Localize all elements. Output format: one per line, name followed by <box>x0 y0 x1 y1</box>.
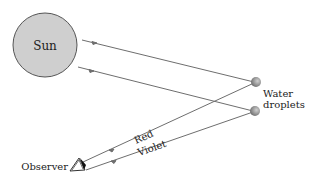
arrow-icon <box>111 161 116 164</box>
outgoing-rays <box>83 83 254 170</box>
arrow-icon <box>89 70 94 73</box>
sun: Sun <box>13 13 77 77</box>
observer-eye-icon <box>70 158 86 171</box>
incoming-rays <box>78 40 254 111</box>
ray-lower <box>78 67 253 111</box>
arrow-icon <box>92 42 97 45</box>
arrow-icon <box>109 149 114 152</box>
water-droplet-upper <box>251 77 261 87</box>
rainbow-diagram: Sun Water droplets Red Violet Observer <box>0 0 316 180</box>
water-label-line1: Water <box>263 88 293 99</box>
water-label-line2: droplets <box>263 99 305 110</box>
water-droplet-lower <box>250 106 260 116</box>
observer-label: Observer <box>21 161 68 172</box>
sun-label: Sun <box>33 39 57 53</box>
ray-upper <box>82 40 254 82</box>
